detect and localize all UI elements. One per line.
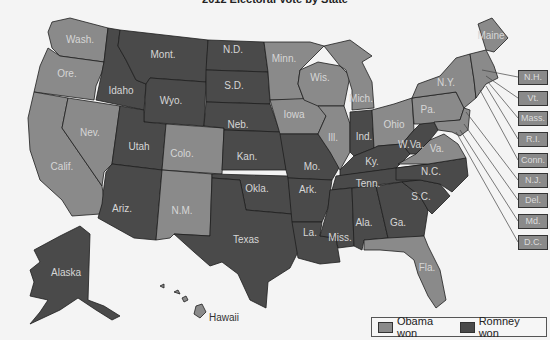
label-texas: Texas xyxy=(233,234,259,245)
legend-item-romney: Romney won xyxy=(460,315,538,339)
label-la: La. xyxy=(303,227,317,238)
legend-swatch-romney xyxy=(460,322,475,333)
label-sc: S.C. xyxy=(411,191,430,202)
label-colo: Colo. xyxy=(170,148,193,159)
label-alaska: Alaska xyxy=(51,267,81,278)
callout-conn[interactable]: Conn. xyxy=(518,153,548,168)
state-hawaii-islands xyxy=(160,284,188,302)
state-hawaii[interactable] xyxy=(194,304,206,318)
us-map: Wash. Ore. Calif. Nev. Idaho Mont. Wyo. … xyxy=(0,0,550,340)
label-calif: Calif. xyxy=(51,161,74,172)
label-mich: Mich. xyxy=(349,93,373,104)
label-ny: N.Y. xyxy=(437,77,455,88)
label-nc: N.C. xyxy=(421,166,441,177)
label-kan: Kan. xyxy=(237,151,258,162)
label-miss: Miss. xyxy=(328,232,351,243)
legend-label-romney: Romney won xyxy=(479,315,538,339)
label-wis: Wis. xyxy=(310,72,329,83)
label-nev: Nev. xyxy=(80,127,100,138)
label-ohio: Ohio xyxy=(383,119,405,130)
label-fla: Fla. xyxy=(419,262,436,273)
callout-nh[interactable]: N.H. xyxy=(518,70,548,85)
label-nd: N.D. xyxy=(223,44,243,55)
label-va: Va. xyxy=(430,143,444,154)
callout-md[interactable]: Md. xyxy=(518,214,548,229)
callout-del[interactable]: Del. xyxy=(518,193,548,208)
label-utah: Utah xyxy=(128,141,149,152)
label-ga: Ga. xyxy=(390,217,406,228)
label-mo: Mo. xyxy=(304,161,321,172)
label-ariz: Ariz. xyxy=(112,203,132,214)
label-okla: Okla. xyxy=(245,183,268,194)
label-idaho: Idaho xyxy=(108,85,133,96)
legend-swatch-obama xyxy=(378,322,393,333)
state-kan[interactable] xyxy=(222,130,286,170)
label-ala: Ala. xyxy=(355,217,372,228)
callout-nj[interactable]: N.J. xyxy=(518,173,548,188)
legend-label-obama: Obama won xyxy=(397,315,452,339)
label-neb: Neb. xyxy=(227,119,248,130)
legend-item-obama: Obama won xyxy=(378,315,452,339)
label-sd: S.D. xyxy=(224,80,243,91)
label-ill: Ill. xyxy=(328,132,338,143)
label-minn: Minn. xyxy=(272,53,296,64)
callout-vt[interactable]: Vt. xyxy=(518,91,548,106)
label-nm: N.M. xyxy=(171,205,192,216)
state-wis[interactable] xyxy=(298,62,350,106)
callout-mass[interactable]: Mass. xyxy=(518,111,548,126)
label-ore: Ore. xyxy=(57,68,76,79)
label-iowa: Iowa xyxy=(283,109,305,120)
label-maine: Maine xyxy=(477,30,505,41)
callout-dc[interactable]: D.C. xyxy=(518,235,548,250)
callout-ri[interactable]: R.I. xyxy=(518,132,548,147)
label-pa: Pa. xyxy=(420,104,435,115)
label-wyo: Wyo. xyxy=(160,95,183,106)
label-wva: W.Va. xyxy=(398,139,424,150)
label-tenn: Tenn. xyxy=(356,178,380,189)
legend: Obama won Romney won xyxy=(371,317,547,337)
label-ind: Ind. xyxy=(356,131,373,142)
state-ariz[interactable] xyxy=(98,164,162,240)
label-ky: Ky. xyxy=(365,156,379,167)
label-wash: Wash. xyxy=(66,34,94,45)
label-ark: Ark. xyxy=(299,184,317,195)
label-hawaii: Hawaii xyxy=(209,312,239,323)
label-mont: Mont. xyxy=(150,49,175,60)
